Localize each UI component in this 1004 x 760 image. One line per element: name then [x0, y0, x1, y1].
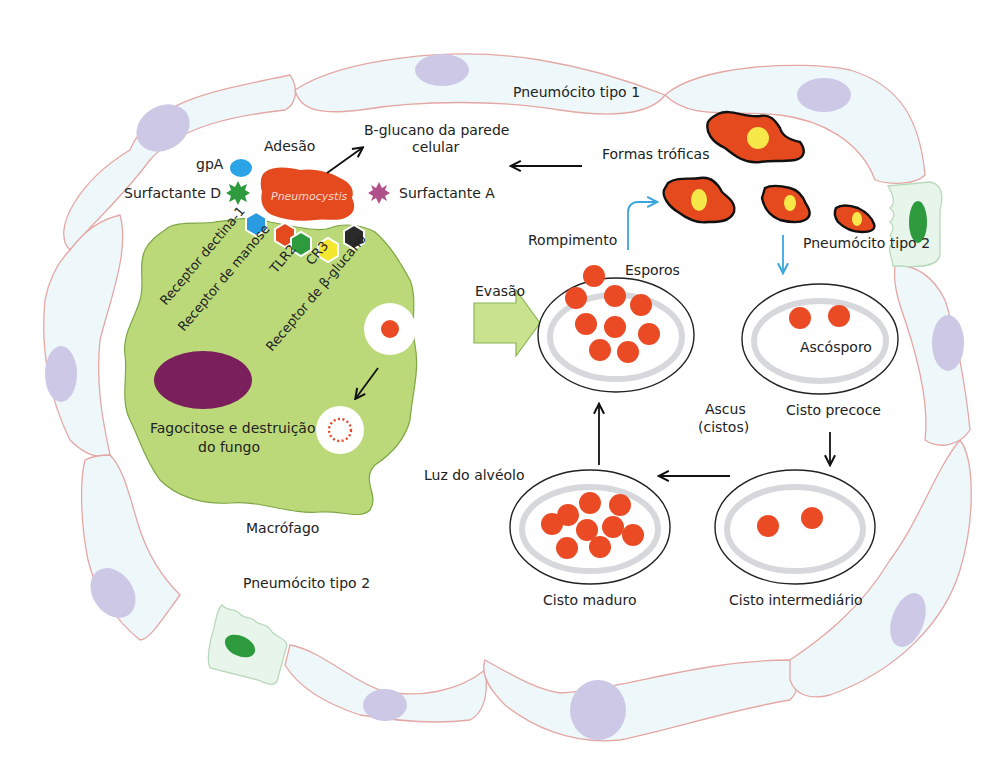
label-formas-troficas: Formas tróficas	[602, 146, 709, 162]
label-fagocitose-1: Fagocitose e destruição	[150, 420, 316, 436]
label-ascus-2: (cistos)	[698, 419, 749, 435]
label-surfactante-d: Surfactante D	[124, 185, 221, 201]
evasao-arrow	[474, 290, 540, 356]
label-evasao: Evasão	[475, 283, 525, 299]
label-cisto-maduro: Cisto maduro	[543, 592, 636, 608]
pneumocyte-type1-cell	[665, 65, 925, 183]
label-surfactante-a: Surfactante A	[399, 185, 495, 201]
label-ascosporo: Ascósporo	[800, 339, 872, 355]
nucleus	[363, 689, 407, 721]
cyst-intermediario	[715, 470, 875, 584]
nucleus	[415, 54, 469, 86]
label-macrofago: Macrófago	[246, 520, 319, 536]
label-fagocitose-2: do fungo	[198, 439, 260, 455]
surfactante-a-icon	[368, 182, 390, 204]
label-cisto-intermediario: Cisto intermediário	[729, 592, 863, 608]
surfactante-d-icon	[226, 181, 250, 205]
label-cisto-precoce: Cisto precoce	[786, 402, 881, 418]
label-ascus-1: Ascus	[705, 401, 746, 417]
gpa-icon	[230, 159, 252, 177]
label-adesao: Adesão	[264, 138, 315, 154]
label-b-glucano-1: B-glucano da parede	[364, 122, 509, 138]
macrophage-nucleus	[154, 351, 252, 409]
engulfed-spore	[381, 320, 399, 338]
cyst-esporos	[538, 265, 694, 392]
label-luz-alveolo: Luz do alvéolo	[424, 467, 525, 483]
cyst-maduro	[510, 470, 670, 584]
diagram-canvas: Receptor dectina-1 Receptor de manose TL…	[0, 0, 1004, 760]
nucleus	[570, 680, 626, 740]
pneumocyte-type1-cell	[484, 660, 798, 741]
label-pneumocito-tipo2-bottom: Pneumócito tipo 2	[243, 575, 370, 591]
adhesion-arrow	[327, 148, 362, 173]
label-b-glucano-2: celular	[412, 139, 460, 155]
label-pneumocito-tipo1: Pneumócito tipo 1	[513, 84, 640, 100]
label-pneumocystis: Pneumocystis	[271, 190, 347, 203]
pneumocyte-type1-cell	[44, 215, 123, 456]
phagolysosome	[316, 406, 364, 454]
label-pneumocito-tipo2-right: Pneumócito tipo 2	[803, 235, 930, 251]
label-esporos: Esporos	[625, 262, 680, 278]
nucleus	[932, 315, 964, 371]
rompimento-arrow	[628, 202, 656, 250]
label-gpa: gpA	[196, 156, 224, 172]
nucleus	[45, 346, 77, 402]
label-rompimento: Rompimento	[528, 232, 617, 248]
nucleus	[797, 78, 851, 112]
